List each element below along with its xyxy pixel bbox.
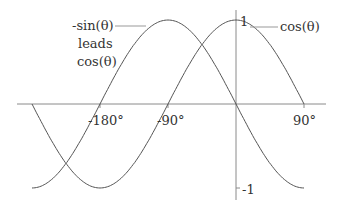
leads-label: leads bbox=[78, 36, 113, 52]
cos-label: cos(θ) bbox=[280, 19, 320, 35]
x-tick-90: 90° bbox=[293, 113, 316, 129]
x-tick-minus180: -180° bbox=[88, 113, 124, 129]
x-tick-minus90: -90° bbox=[157, 113, 184, 129]
y-tick-1: 1 bbox=[240, 14, 248, 30]
y-tick-minus1: -1 bbox=[242, 182, 255, 198]
neg-sin-label: -sin(θ) bbox=[72, 18, 114, 34]
neg-sin-cos-label: cos(θ) bbox=[77, 54, 117, 70]
